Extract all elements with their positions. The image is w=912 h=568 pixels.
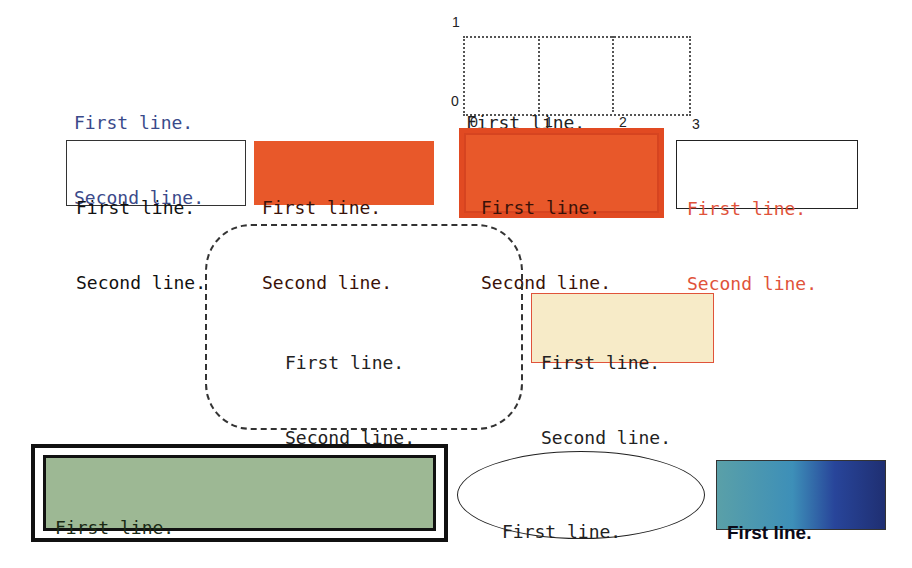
x-tick-3: 3 <box>692 116 700 132</box>
line-1: First line. <box>262 195 434 220</box>
dashed-rounded-box: First line. Second line. <box>205 224 523 430</box>
orange-thick-border-box: First line. Second line. <box>459 128 664 218</box>
framed-box: First line. Second line. <box>66 140 246 206</box>
line-1: First line. <box>687 196 857 221</box>
line-1: First line. <box>541 350 713 375</box>
orange-filled-box: First line. Second line. <box>254 141 434 205</box>
line-1: First line. <box>502 519 704 544</box>
green-inner-box: First line. Second line. <box>43 455 436 531</box>
red-text-framed-box: First line. Second line. <box>676 140 858 209</box>
line-2: Second line. <box>541 425 713 450</box>
line-1: First line. <box>727 520 885 546</box>
grid-divider-2 <box>612 36 614 112</box>
line-1: First line. <box>481 195 659 220</box>
line-1: First line. <box>76 195 245 220</box>
cream-box: First line. Second line. <box>531 293 714 363</box>
line-1: First line. <box>74 110 204 135</box>
gradient-box: First line. Second line. <box>716 460 886 530</box>
double-frame-green-box: First line. Second line. <box>31 444 448 542</box>
y-tick-1: 1 <box>452 14 460 30</box>
y-tick-0: 0 <box>451 93 459 109</box>
line-1: First line. <box>55 515 433 540</box>
line-1: First line. <box>285 350 521 375</box>
ellipse-box: First line. Second line. <box>457 451 705 539</box>
